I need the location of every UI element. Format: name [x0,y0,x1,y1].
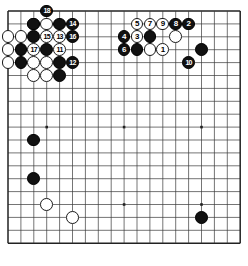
stone-move-number: 13 [56,34,62,41]
stone-black [53,56,66,69]
stone-move-number: 6 [122,46,126,54]
stone-numbered-11: 11 [53,43,66,56]
stone-black [195,211,208,224]
stone-numbered-2: 2 [182,18,195,31]
star-point [200,126,203,129]
stone-numbered-10: 10 [182,56,195,69]
stone-white [27,69,40,82]
star-point [123,126,126,129]
star-point [45,126,48,129]
stone-black [53,18,66,31]
star-point [123,203,126,206]
stone-move-number: 7 [148,20,152,28]
stone-white [40,69,53,82]
stone-move-number: 8 [174,20,178,28]
stone-move-number: 15 [44,34,50,41]
stone-white [40,56,53,69]
stone-move-number: 2 [187,20,191,28]
stone-move-number: 18 [44,8,50,15]
stone-move-number: 17 [31,46,37,53]
stone-move-number: 14 [69,21,75,28]
stone-black [15,56,28,69]
stone-numbered-12: 12 [66,56,79,69]
stone-move-number: 11 [57,46,63,53]
star-point [200,203,203,206]
stone-numbered-14: 14 [66,18,79,31]
stone-move-number: 3 [135,33,139,41]
stone-white [40,198,53,211]
stone-black [195,43,208,56]
stone-move-number: 12 [69,59,75,66]
stone-white [66,211,79,224]
stone-move-number: 16 [69,34,75,41]
stone-move-number: 1 [161,46,165,54]
stone-black [53,69,66,82]
stone-numbered-16: 16 [66,30,79,43]
stone-move-number: 10 [185,59,191,66]
stone-move-number: 9 [161,20,165,28]
go-board-diagram: 181415131617111257982436110 [0,0,248,266]
stone-move-number: 5 [135,20,139,28]
stone-move-number: 4 [122,33,126,41]
